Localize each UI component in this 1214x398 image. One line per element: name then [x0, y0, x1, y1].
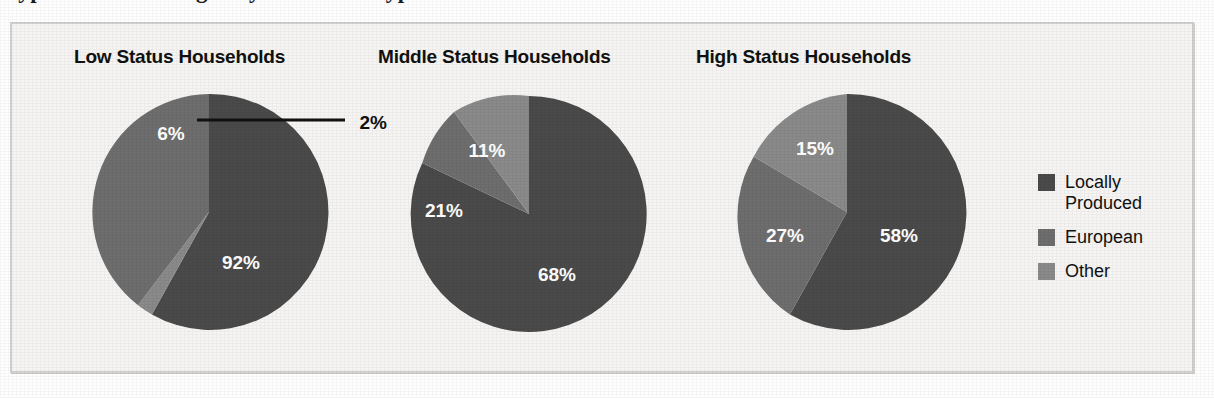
- pie-chart-high-status: 58% 27% 15%: [727, 92, 967, 332]
- pie-title-high-status: High Status Households: [696, 46, 911, 68]
- pie-label-middle-locally-produced: 68%: [538, 264, 576, 285]
- pie-label-high-european: 27%: [766, 225, 804, 246]
- pie-title-middle-status: Middle Status Households: [378, 46, 611, 68]
- legend-label-locally-produced: Locally Produced: [1065, 172, 1142, 214]
- pie-label-middle-european: 21%: [425, 200, 463, 221]
- figure-caption-clipped: Types of foods bought by household type: [0, 0, 1214, 16]
- pie-label-low-european: 6%: [157, 123, 185, 144]
- pie-label-high-locally-produced: 58%: [880, 225, 918, 246]
- legend-swatch-icon-european: [1038, 229, 1055, 246]
- legend-item-european: European: [1038, 227, 1198, 248]
- figure-container: Types of foods bought by household type …: [0, 0, 1214, 398]
- legend-item-other: Other: [1038, 261, 1198, 282]
- legend-label-other: Other: [1065, 261, 1110, 282]
- callout-low-other: 2%: [197, 112, 387, 138]
- legend-label-european: European: [1065, 227, 1143, 248]
- pie-label-middle-other: 11%: [469, 140, 506, 161]
- chart-frame: Low Status Households 92% 6% 2% Middle S…: [10, 22, 1194, 373]
- legend-swatch-icon-other: [1038, 263, 1055, 280]
- pie-label-high-other: 15%: [796, 138, 834, 159]
- pie-chart-middle-status: 68% 21% 11%: [409, 94, 649, 334]
- callout-leader-line: [197, 112, 387, 138]
- pie-title-low-status: Low Status Households: [74, 46, 285, 68]
- pie-label-low-other: 2%: [360, 112, 387, 134]
- pie-label-low-locally-produced: 92%: [222, 252, 260, 273]
- legend-swatch-icon-locally-produced: [1038, 174, 1055, 191]
- legend-item-locally-produced: Locally Produced: [1038, 172, 1198, 214]
- figure-caption-text: Types of foods bought by household type: [4, 0, 422, 4]
- chart-legend: Locally Produced European Other: [1038, 172, 1198, 295]
